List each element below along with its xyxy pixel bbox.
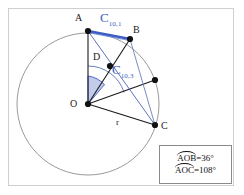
legend-aob-value: 36° <box>201 154 214 164</box>
chord-label-c-10-1-sub: 10,1 <box>109 20 122 28</box>
point-label-B: B <box>133 25 140 35</box>
point-dot-C <box>152 122 158 128</box>
chord-label-c-10-3: C10,3 <box>112 61 134 80</box>
chord-AB <box>88 31 130 39</box>
legend-row-aoc: AOC = 108° <box>175 165 216 176</box>
chord-label-c-10-1-base: C <box>100 10 109 25</box>
chord-BC <box>130 39 155 125</box>
legend-aoc-value: 108° <box>199 166 216 176</box>
point-dot-P <box>152 77 158 83</box>
point-label-A: A <box>75 13 82 23</box>
diagram-canvas: A B C D O r C10,1 C10,3 AOB = 36° AOC = … <box>0 0 244 195</box>
point-dot-O <box>85 101 91 107</box>
point-label-D: D <box>93 52 100 62</box>
radius-label-r: r <box>116 118 119 127</box>
point-label-C: C <box>161 121 168 131</box>
legend-aoc-arc-text: AOC <box>175 165 194 176</box>
chord-label-c-10-3-sub: 10,3 <box>121 72 134 80</box>
point-label-O: O <box>70 99 77 109</box>
chord-label-c-10-1: C10,1 <box>100 9 122 28</box>
point-dot-A <box>85 28 91 34</box>
segment-OC <box>88 104 155 125</box>
point-dot-B <box>127 36 133 42</box>
chord-label-c-10-3-base: C <box>112 62 121 77</box>
angle-legend-box: AOB = 36° AOC = 108° <box>159 145 232 184</box>
